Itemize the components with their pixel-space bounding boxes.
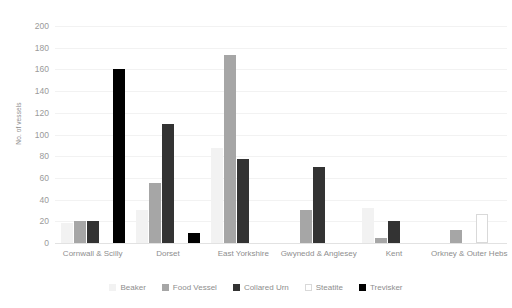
legend-item[interactable]: Steatite <box>305 283 343 292</box>
bar-group-bars <box>356 26 431 243</box>
legend-item[interactable]: Food Vessel <box>162 283 217 292</box>
legend-label: Steatite <box>316 283 343 292</box>
bar-collared-urn <box>388 221 400 243</box>
bar-collared-urn <box>162 124 174 243</box>
bar-steatite <box>476 214 488 243</box>
bar-food-vessel <box>375 238 387 243</box>
bar-beaker <box>136 210 148 243</box>
legend-label: Beaker <box>120 283 145 292</box>
bar-food-vessel <box>224 55 236 243</box>
y-axis-tick-label: 120 <box>35 109 49 118</box>
bar-food-vessel <box>149 183 161 243</box>
bar-beaker <box>362 208 374 243</box>
bar-collared-urn <box>237 159 249 243</box>
bar-group: Gwynedd & Anglesey <box>281 26 356 243</box>
legend-item[interactable]: Collared Urn <box>233 283 289 292</box>
bar-chart: No. of vessels 2001801601401201008060402… <box>0 0 512 308</box>
bar-collared-urn <box>313 167 325 243</box>
y-axis-tick-label: 80 <box>40 152 49 161</box>
y-axis-tick-label: 140 <box>35 87 49 96</box>
bar-food-vessel <box>74 221 86 243</box>
bar-beaker <box>61 223 73 243</box>
legend-item[interactable]: Beaker <box>109 283 145 292</box>
legend-swatch-icon <box>233 284 240 291</box>
y-axis-tick-label: 160 <box>35 65 49 74</box>
bar-group: Kent <box>356 26 431 243</box>
legend-label: Trevisker <box>370 283 403 292</box>
x-axis-category-label: East Yorkshire <box>200 249 286 259</box>
bar-group: East Yorkshire <box>206 26 281 243</box>
legend-label: Collared Urn <box>244 283 289 292</box>
y-axis-tick-label: 20 <box>40 217 49 226</box>
bar-beaker <box>211 148 223 243</box>
gridline <box>55 243 507 244</box>
legend-swatch-icon <box>305 284 312 291</box>
y-axis-tick-label: 0 <box>44 239 49 248</box>
plot-area: 200180160140120100806040200Cornwall & Sc… <box>55 26 507 243</box>
bar-collared-urn <box>87 221 99 243</box>
bar-group: Cornwall & Scilly <box>55 26 130 243</box>
bar-food-vessel <box>300 210 312 243</box>
chart-legend: BeakerFood VesselCollared UrnSteatiteTre… <box>0 283 512 292</box>
bar-trevisker <box>188 233 200 243</box>
bar-group-bars <box>206 26 281 243</box>
bar-food-vessel <box>450 230 462 243</box>
y-axis-title: No. of vessels <box>15 84 22 164</box>
y-axis-tick-label: 180 <box>35 43 49 52</box>
y-axis-tick-label: 40 <box>40 195 49 204</box>
x-axis-category-label: Kent <box>351 249 437 259</box>
legend-swatch-icon <box>162 284 169 291</box>
bar-group-bars <box>432 26 507 243</box>
legend-swatch-icon <box>109 284 116 291</box>
legend-item[interactable]: Trevisker <box>359 283 403 292</box>
legend-label: Food Vessel <box>173 283 217 292</box>
bar-group-bars <box>55 26 130 243</box>
bar-trevisker <box>113 69 125 243</box>
bar-group: Orkney & Outer Hebs <box>432 26 507 243</box>
bar-group-bars <box>130 26 205 243</box>
x-axis-category-label: Orkney & Outer Hebs <box>426 249 512 259</box>
x-axis-category-label: Cornwall & Scilly <box>50 249 136 259</box>
x-axis-category-label: Dorset <box>125 249 211 259</box>
y-axis-tick-label: 200 <box>35 22 49 31</box>
y-axis-tick-label: 60 <box>40 174 49 183</box>
x-axis-category-label: Gwynedd & Anglesey <box>276 249 362 259</box>
y-axis-tick-label: 100 <box>35 130 49 139</box>
bar-group-bars <box>281 26 356 243</box>
bar-group: Dorset <box>130 26 205 243</box>
legend-swatch-icon <box>359 284 366 291</box>
